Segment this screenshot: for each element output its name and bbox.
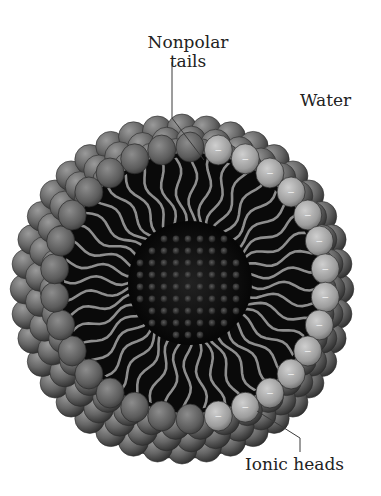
svg-text:−: − bbox=[215, 411, 223, 421]
svg-text:−: − bbox=[287, 187, 295, 197]
svg-text:−: − bbox=[266, 168, 274, 178]
svg-text:−: − bbox=[215, 145, 223, 155]
hydrophobic-core bbox=[128, 221, 252, 345]
svg-text:−: − bbox=[322, 264, 330, 274]
svg-text:−: − bbox=[242, 154, 250, 164]
water-label: Water bbox=[300, 91, 351, 110]
nonpolar-tails-label-line2: tails bbox=[128, 52, 248, 71]
nonpolar-tails-label: Nonpolar tails bbox=[128, 33, 248, 71]
nonpolar-tails-label-line1: Nonpolar bbox=[128, 33, 248, 52]
svg-text:−: − bbox=[304, 346, 312, 356]
svg-text:−: − bbox=[242, 402, 250, 412]
svg-text:−: − bbox=[316, 320, 324, 330]
svg-text:−: − bbox=[316, 236, 324, 246]
micelle-illustration: −−−−−−−−−−−−−− bbox=[0, 0, 381, 496]
svg-text:−: − bbox=[266, 388, 274, 398]
ionic-heads-label: Ionic heads bbox=[245, 455, 344, 474]
svg-text:−: − bbox=[322, 292, 330, 302]
micelle-diagram: −−−−−−−−−−−−−− Nonpolar tails Water Ioni… bbox=[0, 0, 381, 496]
svg-text:−: − bbox=[304, 210, 312, 220]
svg-text:−: − bbox=[287, 369, 295, 379]
